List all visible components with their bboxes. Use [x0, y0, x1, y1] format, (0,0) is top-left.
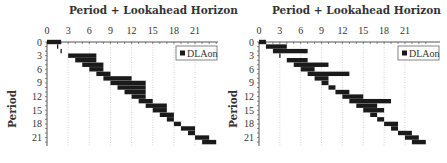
legend-label: DLAon	[409, 48, 440, 59]
y-tick-label: 18	[244, 118, 254, 129]
gantt-bar	[188, 131, 195, 135]
y-tick-label: 12	[32, 91, 42, 102]
x-tick-label: 0	[257, 25, 262, 36]
gantt-bar	[322, 81, 329, 85]
chart-left: Period + Lookahead Horizon Period 036912…	[0, 0, 223, 163]
x-tick-label: 6	[87, 25, 92, 36]
gantt-bar	[47, 40, 61, 44]
gantt-bar	[308, 72, 350, 76]
gantt-bar	[301, 67, 315, 71]
x-tick-label: 3	[277, 25, 282, 36]
y-tick-label: 12	[244, 91, 254, 102]
y-tick-label: 6	[249, 64, 254, 75]
x-tick-label: 3	[66, 25, 71, 36]
gantt-bar	[89, 67, 103, 71]
gantt-bar	[391, 126, 398, 130]
gantt-bar	[118, 85, 146, 89]
gantt-bar	[342, 94, 363, 98]
y-tick-label: 15	[32, 105, 42, 116]
legend-swatch	[402, 51, 407, 56]
chart-right: Period + Lookahead Horizon Period 036912…	[224, 0, 447, 163]
y-tick-label: 0	[249, 37, 254, 48]
gantt-bar	[160, 113, 174, 117]
gantt-bar	[273, 49, 308, 53]
plot-area: 036912151821036912151821DLAon	[224, 0, 447, 163]
gantt-bar	[294, 63, 329, 67]
gantt-bar	[405, 135, 419, 139]
x-tick-label: 15	[358, 25, 368, 36]
x-tick-label: 9	[108, 25, 113, 36]
x-tick-label: 12	[127, 25, 137, 36]
y-tick-label: 9	[249, 77, 254, 88]
gantt-bar	[259, 40, 266, 44]
gantt-marker	[61, 49, 62, 53]
gantt-bar	[335, 90, 349, 94]
gantt-bar	[287, 58, 308, 62]
gantt-bar	[195, 135, 209, 139]
y-tick-label: 6	[37, 64, 42, 75]
y-tick-label: 3	[249, 50, 254, 61]
gantt-bar	[202, 140, 216, 144]
gantt-bar	[181, 126, 195, 130]
x-tick-label: 9	[319, 25, 324, 36]
x-tick-label: 0	[45, 25, 50, 36]
gantt-bar	[139, 99, 153, 103]
y-tick-label: 9	[37, 77, 42, 88]
gantt-bar	[75, 58, 96, 62]
gantt-bar	[146, 104, 167, 108]
gantt-bar	[398, 131, 412, 135]
x-tick-label: 18	[169, 25, 179, 36]
plot-area: 036912151821036912151821DLAon	[0, 0, 223, 163]
gantt-bar	[356, 104, 377, 108]
y-tick-label: 3	[37, 50, 42, 61]
gantt-bar	[167, 117, 174, 121]
x-tick-label: 12	[337, 25, 347, 36]
x-tick-label: 18	[379, 25, 389, 36]
gantt-bar	[82, 63, 103, 67]
gantt-bar	[349, 99, 391, 103]
gantt-bar	[384, 122, 398, 126]
gantt-bar	[103, 76, 131, 80]
gantt-bar	[266, 44, 287, 48]
gantt-bar	[125, 90, 146, 94]
gantt-bar	[174, 122, 181, 126]
x-tick-label: 21	[400, 25, 410, 36]
gantt-bar	[329, 85, 336, 89]
gantt-bar	[153, 108, 167, 112]
gantt-bar	[363, 108, 384, 112]
y-tick-label: 21	[244, 132, 254, 143]
y-tick-label: 0	[37, 37, 42, 48]
gantt-bar	[377, 117, 384, 121]
gantt-bar	[412, 140, 426, 144]
x-tick-label: 6	[298, 25, 303, 36]
gantt-marker	[279, 53, 280, 57]
gantt-bar	[68, 53, 96, 57]
y-tick-label: 15	[244, 105, 254, 116]
gantt-bar	[315, 76, 329, 80]
y-tick-label: 18	[32, 118, 42, 129]
gantt-marker	[57, 44, 58, 48]
y-tick-label: 21	[32, 132, 42, 143]
gantt-bar	[96, 72, 110, 76]
gantt-bar	[132, 94, 146, 98]
x-tick-label: 21	[190, 25, 200, 36]
legend-swatch	[180, 51, 185, 56]
gantt-bar	[370, 113, 377, 117]
x-tick-label: 15	[148, 25, 158, 36]
legend-label: DLAon	[187, 48, 218, 59]
gantt-bar	[110, 81, 145, 85]
